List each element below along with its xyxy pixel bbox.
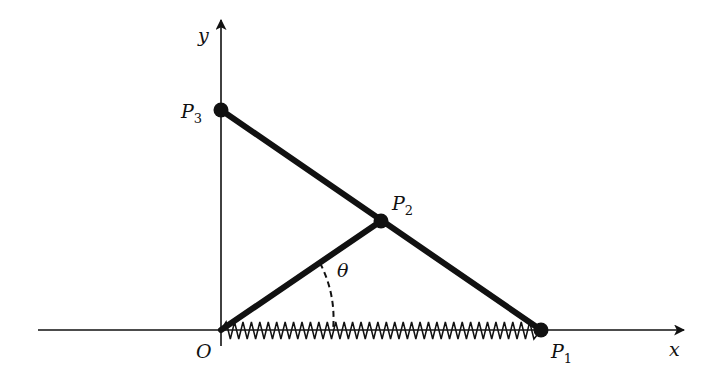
x-axis-label: x: [669, 338, 680, 360]
point-p3: [214, 103, 229, 118]
point-p2: [374, 214, 389, 229]
linkage-diagram: y x O θ P3 P2 P1: [0, 0, 716, 377]
origin-label: O: [196, 340, 212, 362]
label-p3: P3: [180, 100, 202, 126]
rod-o-p2: [221, 221, 381, 330]
angle-label: θ: [337, 259, 349, 281]
y-axis-label: y: [197, 24, 209, 46]
label-p2: P2: [391, 192, 413, 218]
point-p1: [534, 323, 549, 338]
label-p1: P1: [550, 340, 572, 366]
angle-arc: [320, 263, 334, 330]
